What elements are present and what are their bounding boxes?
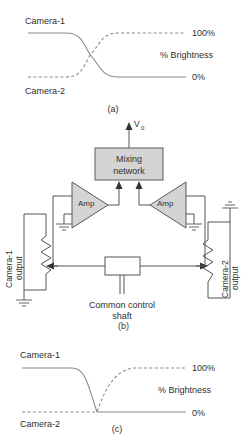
figure-a-crossfade-chart: Camera-1 Camera-2 100% 0% % Brightness (…: [0, 0, 247, 118]
amp-left-output-wire: [108, 189, 119, 205]
amp-right-output-wire: [139, 189, 150, 205]
figure-a-bottom-value-label: 0%: [192, 72, 205, 82]
figure-c-crossfade-chart: Camera-1 Camera-2 100% 0% % Brightness (…: [0, 328, 247, 446]
figure-c-camera2-label: Camera-2: [20, 419, 60, 429]
amp-right-label: Amp: [157, 199, 174, 208]
camera2-output-label-line1: Camera-2: [220, 260, 230, 298]
camera1-output-label-line2: output: [14, 256, 24, 280]
pot-left-outer-bottom-wire: [24, 214, 46, 290]
mixing-input-left-arrow-icon: [116, 181, 123, 189]
amp-left-ground-icon: [56, 224, 72, 230]
amp-right-ground-icon: [186, 224, 202, 230]
figure-c-caption: (c): [112, 424, 123, 434]
amp-left-input-wire: [53, 196, 72, 266]
figure-a-caption: (a): [108, 104, 119, 114]
amp-left-label: Amp: [78, 199, 95, 208]
figure-c-svg: Camera-1 Camera-2 100% 0% % Brightness (…: [0, 328, 247, 446]
amp-right-input-wire: [186, 196, 205, 266]
vo-label-subscript: 0: [141, 125, 145, 131]
mixing-input-right-arrow-icon: [136, 181, 143, 189]
figure-a-svg: Camera-1 Camera-2 100% 0% % Brightness (…: [0, 0, 247, 118]
common-control-shaft-box: [105, 257, 140, 275]
camera2-output-label-line2: output: [230, 266, 240, 290]
figure-b-circuit-diagram: V 0 Mixing network Amp Amp: [0, 118, 247, 328]
pot-right-ground-icon: [222, 202, 238, 208]
figure-a-top-value-label: 100%: [192, 28, 215, 38]
figure-c-bottom-value-label: 0%: [192, 408, 205, 418]
mixing-network-label-line1: Mixing: [116, 154, 142, 164]
vo-arrow-icon: [126, 122, 133, 130]
common-control-shaft-label-line1: Common control: [89, 300, 155, 310]
pot-left-wiper-arrow-icon: [46, 263, 54, 270]
camera1-output-label-line1: Camera-1: [4, 250, 14, 288]
vo-label: V: [134, 119, 140, 129]
figure-a-camera1-label: Camera-1: [25, 16, 65, 26]
amp-right-ground-wire: [186, 214, 194, 224]
figure-a-camera2-label: Camera-2: [25, 86, 65, 96]
figure-c-top-value-label: 100%: [192, 363, 215, 373]
figure-c-camera1-label: Camera-1: [20, 350, 60, 360]
common-control-shaft-label-line2: shaft: [112, 311, 132, 321]
pot-left-resistor-zigzag: [41, 236, 51, 274]
amp-left-ground-wire: [64, 214, 72, 224]
pot-left-ground-icon: [16, 300, 32, 306]
figure-a-axis-label: % Brightness: [160, 50, 214, 60]
mixing-network-label-line2: network: [113, 166, 145, 176]
figure-c-axis-label: % Brightness: [158, 385, 212, 395]
figure-b-svg: V 0 Mixing network Amp Amp: [0, 118, 247, 328]
